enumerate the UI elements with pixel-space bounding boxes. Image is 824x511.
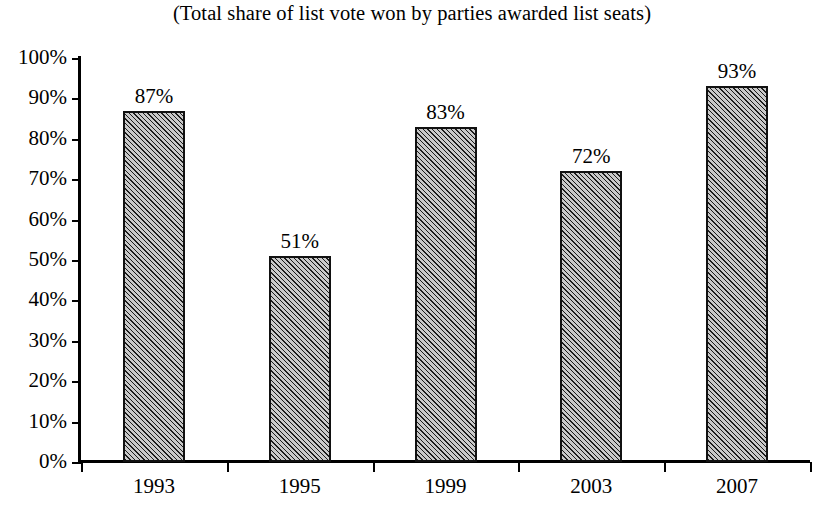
- y-axis-tick-label: 90%: [0, 85, 67, 109]
- y-axis-tick-mark: [72, 300, 81, 302]
- y-axis-tick-mark: [72, 220, 81, 222]
- y-axis-tick-mark: [72, 58, 81, 60]
- x-axis-tick-mark: [518, 462, 520, 472]
- chart-title: (Total share of list vote won by parties…: [0, 0, 824, 26]
- bar-value-label: 72%: [572, 144, 611, 168]
- y-axis-tick-mark: [72, 179, 81, 181]
- bar: 87%: [123, 111, 185, 462]
- y-axis-tick-label: 0%: [0, 449, 67, 473]
- y-axis-tick-label: 10%: [0, 409, 67, 433]
- bar-value-label: 83%: [426, 100, 465, 124]
- x-axis-category-label: 1993: [84, 474, 224, 499]
- x-axis-tick-mark: [810, 462, 812, 472]
- x-axis-tick-mark: [81, 462, 83, 472]
- bar: 93%: [706, 86, 768, 462]
- x-axis-category-label: 1999: [376, 474, 516, 499]
- y-axis-tick-mark: [72, 341, 81, 343]
- y-axis-tick-mark: [72, 462, 81, 464]
- y-axis-tick-mark: [72, 98, 81, 100]
- y-axis-tick-mark: [72, 422, 81, 424]
- x-axis-tick-mark: [227, 462, 229, 472]
- bar: 83%: [415, 127, 477, 462]
- bar-chart-figure: (Total share of list vote won by parties…: [0, 0, 824, 511]
- bar-value-label: 93%: [718, 59, 757, 83]
- y-axis-tick-label: 40%: [0, 287, 67, 311]
- x-axis-tick-mark: [664, 462, 666, 472]
- x-axis-tick-mark: [373, 462, 375, 472]
- y-axis-tick-label: 20%: [0, 368, 67, 392]
- y-axis-tick-label: 50%: [0, 247, 67, 271]
- y-axis-tick-label: 30%: [0, 328, 67, 352]
- y-axis-tick-label: 80%: [0, 126, 67, 150]
- plot-area: 100%90%80%70%60%50%40%30%20%10%0% 87%51%…: [81, 58, 810, 462]
- y-axis-tick-label: 70%: [0, 166, 67, 190]
- x-axis-category-label: 2007: [667, 474, 807, 499]
- y-axis-tick-label: 60%: [0, 207, 67, 231]
- y-axis-tick-mark: [72, 260, 81, 262]
- bar: 51%: [269, 256, 331, 462]
- bar-value-label: 51%: [280, 229, 319, 253]
- y-axis-tick-label: 100%: [0, 45, 67, 69]
- y-axis-tick-mark: [72, 139, 81, 141]
- x-axis-category-label: 2003: [521, 474, 661, 499]
- x-axis-category-label: 1995: [230, 474, 370, 499]
- bar: 72%: [560, 171, 622, 462]
- bar-value-label: 87%: [135, 84, 174, 108]
- y-axis-tick-mark: [72, 381, 81, 383]
